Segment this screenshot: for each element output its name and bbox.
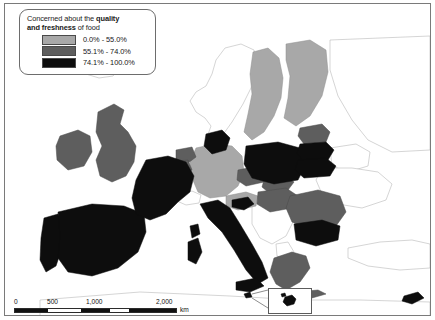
country-turkey bbox=[348, 240, 430, 270]
country-poland bbox=[244, 142, 306, 184]
scale-bar-tick-labels: 0 500 1,000 2,000 bbox=[14, 298, 177, 308]
country-ireland bbox=[56, 130, 92, 170]
map-figure: Concerned about the quality and freshnes… bbox=[0, 0, 435, 320]
country-estonia bbox=[298, 124, 330, 144]
country-france bbox=[132, 156, 194, 220]
scale-tick-0: 0 bbox=[14, 298, 18, 305]
legend-title-line1-plain: Concerned about the bbox=[27, 14, 96, 23]
scale-seg-1 bbox=[15, 309, 48, 312]
legend-item-class-1[interactable]: 55.1% - 74.0% bbox=[26, 46, 150, 56]
legend-label-class-0: 0.0% - 55.0% bbox=[83, 35, 127, 44]
island-sardinia bbox=[188, 238, 202, 264]
scale-bar-graphic: km bbox=[14, 308, 177, 313]
malta-inset-box[interactable] bbox=[268, 288, 312, 314]
legend-title-line2-bold: and freshness bbox=[27, 23, 76, 32]
legend-label-class-2: 74.1% - 100.0% bbox=[83, 58, 135, 67]
inset-island-gozo bbox=[281, 293, 286, 297]
legend-title-line1-bold: quality bbox=[96, 14, 119, 23]
legend-swatch-class-0 bbox=[42, 35, 76, 45]
scale-seg-2 bbox=[48, 309, 81, 312]
scale-seg-3 bbox=[81, 309, 110, 312]
map-legend: Concerned about the quality and freshnes… bbox=[19, 9, 156, 75]
scale-tick-2000: 2,000 bbox=[156, 298, 173, 305]
scale-bar-unit: km bbox=[180, 306, 189, 313]
country-spain bbox=[58, 204, 146, 276]
country-russia bbox=[330, 36, 430, 152]
country-finland bbox=[284, 40, 328, 126]
country-bulgaria bbox=[294, 220, 340, 246]
inset-island-malta bbox=[283, 295, 296, 306]
country-united-kingdom bbox=[96, 104, 136, 182]
country-greece bbox=[270, 252, 310, 290]
scale-bar: 0 500 1,000 2,000 km bbox=[14, 298, 177, 313]
legend-label-class-1: 55.1% - 74.0% bbox=[83, 47, 131, 56]
scale-seg-4 bbox=[110, 309, 129, 312]
scale-tick-500: 500 bbox=[47, 298, 58, 305]
legend-swatch-class-1 bbox=[42, 46, 76, 56]
scale-seg-5 bbox=[129, 309, 176, 312]
legend-title: Concerned about the quality and freshnes… bbox=[27, 14, 150, 33]
country-lithuania bbox=[295, 158, 336, 178]
legend-item-class-0[interactable]: 0.0% - 55.0% bbox=[26, 35, 150, 45]
scale-tick-1000: 1,000 bbox=[86, 298, 103, 305]
legend-swatch-class-2 bbox=[42, 58, 76, 68]
island-corsica bbox=[190, 224, 200, 238]
legend-item-class-2[interactable]: 74.1% - 100.0% bbox=[26, 58, 150, 68]
legend-title-line2-plain: of food bbox=[76, 23, 100, 32]
